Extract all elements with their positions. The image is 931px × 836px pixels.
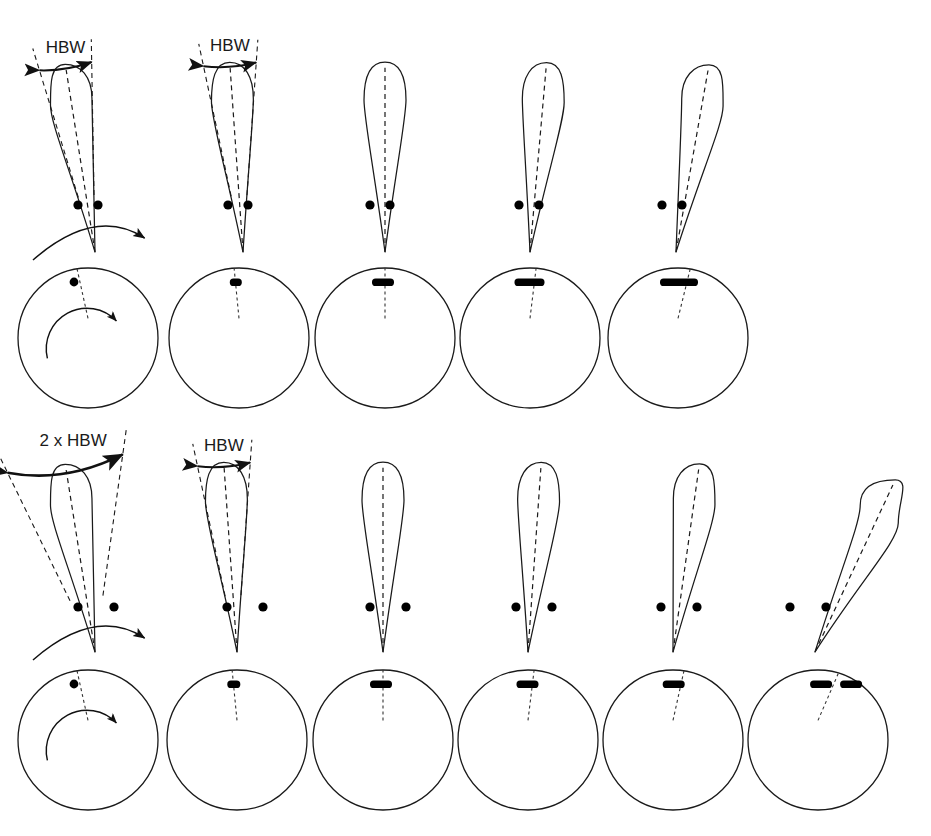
- hbw-label: HBW: [46, 38, 86, 57]
- target-echo-blob-second: [840, 680, 862, 688]
- hbw-label: HBW: [210, 36, 250, 55]
- target-dot: [73, 602, 82, 611]
- target-dot: [222, 602, 231, 611]
- target-echo-blob: [663, 680, 685, 688]
- target-dot: [677, 200, 686, 209]
- target-dot: [656, 602, 665, 611]
- target-dot: [692, 602, 701, 611]
- target-dot: [534, 200, 543, 209]
- target-dot: [109, 602, 118, 611]
- target-dot: [223, 200, 232, 209]
- target-dot: [365, 200, 374, 209]
- target-echo-blob: [230, 278, 242, 286]
- target-dot: [514, 200, 523, 209]
- target-echo-blob: [70, 278, 79, 287]
- background: [0, 0, 931, 836]
- figure-canvas: HBWHBW2 x HBWHBW: [0, 0, 931, 836]
- target-echo-blob: [370, 680, 392, 688]
- target-dot: [385, 200, 394, 209]
- target-dot: [547, 602, 556, 611]
- target-dot: [785, 602, 794, 611]
- target-dot: [243, 200, 252, 209]
- target-echo-blob: [70, 680, 79, 689]
- target-echo-blob: [517, 680, 539, 688]
- target-dot: [93, 200, 102, 209]
- beamwidth-resolution-figure: HBWHBW2 x HBWHBW: [0, 0, 931, 836]
- target-echo-blob: [372, 278, 394, 286]
- target-dot: [657, 200, 666, 209]
- target-echo-blob: [515, 278, 545, 286]
- target-echo-blob: [810, 680, 832, 688]
- target-dot: [73, 200, 82, 209]
- target-echo-blob: [660, 278, 698, 286]
- hbw-label: HBW: [204, 436, 244, 455]
- target-echo-blob: [227, 680, 240, 688]
- target-dot: [258, 602, 267, 611]
- target-dot: [821, 602, 830, 611]
- target-dot: [401, 602, 410, 611]
- two-hbw-label: 2 x HBW: [40, 431, 107, 450]
- target-dot: [511, 602, 520, 611]
- target-dot: [365, 602, 374, 611]
